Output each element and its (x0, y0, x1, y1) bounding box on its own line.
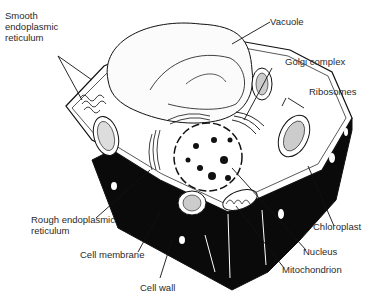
nucleus-shape (174, 123, 242, 191)
label-smooth-er: Smooth endoplasmic reticulum (5, 10, 58, 43)
chloroplast-bottom (178, 191, 206, 215)
label-vacuole: Vacuole (270, 16, 304, 27)
label-ribosomes: Ribosomes (309, 86, 357, 97)
label-cell-wall: Cell wall (140, 282, 175, 293)
label-mitochondrion: Mitochondrion (282, 264, 342, 275)
label-golgi-complex: Golgi complex (285, 56, 345, 67)
label-nucleus: Nucleus (303, 246, 337, 257)
plant-cell-diagram (0, 0, 380, 306)
label-chloroplast: Chloroplast (313, 221, 361, 232)
label-cell-membrane: Cell membrane (80, 249, 144, 260)
label-rough-er: Rough endoplasmic reticulum (31, 214, 115, 236)
